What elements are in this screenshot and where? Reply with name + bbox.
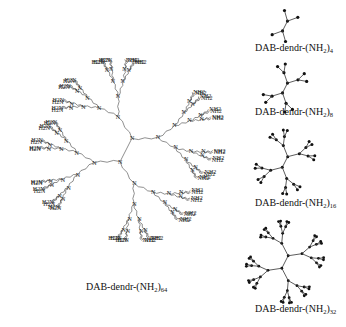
- label-subscript: 64: [161, 286, 168, 293]
- svg-text:NH2: NH2: [190, 197, 202, 203]
- label-dab-32: DAB-dendr-(NH2)32: [255, 303, 336, 315]
- svg-text:H2N: H2N: [53, 97, 65, 103]
- svg-text:H2N: H2N: [31, 179, 43, 185]
- svg-text:N: N: [48, 178, 53, 184]
- svg-text:N: N: [121, 78, 126, 84]
- svg-text:N: N: [184, 156, 189, 162]
- svg-text:N: N: [66, 185, 71, 191]
- label-text: DAB-dendr-(NH: [86, 281, 154, 292]
- svg-text:N: N: [132, 201, 137, 207]
- label-subscript: 4: [330, 47, 333, 54]
- svg-text:N: N: [116, 93, 121, 99]
- svg-text:NH2: NH2: [212, 157, 224, 163]
- dab-dendrimer-32-schematic: [245, 220, 325, 305]
- svg-text:N: N: [137, 216, 142, 222]
- svg-text:N: N: [78, 85, 83, 91]
- svg-text:H2N: H2N: [45, 119, 57, 125]
- svg-text:N: N: [190, 167, 195, 173]
- svg-text:H2N: H2N: [65, 77, 77, 83]
- svg-text:H2N: H2N: [51, 105, 63, 111]
- dab-dendrimer-4-schematic: [271, 9, 300, 43]
- svg-text:NH2: NH2: [198, 175, 210, 181]
- label-subscript: 8: [330, 111, 333, 118]
- label-dab-8: DAB-dendr-(NH2)8: [255, 106, 333, 118]
- svg-text:N: N: [58, 127, 63, 133]
- svg-text:H2N: H2N: [29, 145, 41, 151]
- svg-text:H2N: H2N: [108, 235, 120, 241]
- svg-text:N: N: [59, 146, 64, 152]
- svg-text:NH2: NH2: [178, 217, 190, 223]
- svg-text:N: N: [143, 227, 148, 233]
- svg-text:NH2: NH2: [212, 115, 224, 121]
- label-dab-64: DAB-dendr-(NH2)64: [86, 281, 167, 293]
- svg-text:NH2: NH2: [143, 237, 155, 243]
- label-text: DAB-dendr-(NH: [255, 303, 323, 314]
- label-subscript: 16: [330, 202, 337, 209]
- label-text: DAB-dendr-(NH: [255, 106, 323, 117]
- svg-text:NH2: NH2: [201, 95, 213, 101]
- label-subscript: 32: [330, 308, 337, 315]
- svg-text:H2N: H2N: [31, 137, 43, 143]
- svg-text:N: N: [122, 227, 127, 233]
- svg-text:N: N: [92, 160, 97, 166]
- svg-text:H2N: H2N: [100, 57, 112, 63]
- dab-dendrimer-16-schematic: [254, 128, 317, 195]
- svg-text:H2N: H2N: [42, 199, 54, 205]
- label-text: DAB-dendr-(NH: [255, 197, 323, 208]
- label-dab-16: DAB-dendr-(NH2)16: [255, 197, 336, 209]
- label-text: DAB-dendr-(NH: [255, 42, 323, 53]
- svg-text:H2N: H2N: [33, 186, 45, 192]
- label-dab-4: DAB-dendr-(NH2)4: [255, 42, 333, 54]
- svg-text:N: N: [81, 104, 86, 110]
- svg-text:NH2: NH2: [135, 59, 147, 65]
- dab-dendrimer-64-structure: NNNNNNH2NH2NNH2NH2NNNH2NH2NNH2NH2NNNNH2N…: [29, 57, 225, 244]
- svg-text:N: N: [75, 150, 80, 156]
